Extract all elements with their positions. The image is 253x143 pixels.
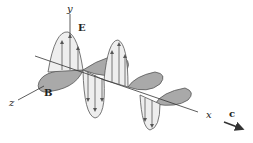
velocity-arrow bbox=[224, 122, 240, 128]
b-field-label: B bbox=[44, 87, 52, 98]
y-axis-label: y bbox=[66, 3, 73, 14]
z-axis-label: z bbox=[8, 97, 15, 108]
em-wave-diagram: y E z B x c bbox=[0, 0, 253, 143]
z-axis bbox=[18, 86, 44, 100]
b-field-lobes bbox=[20, 57, 191, 106]
e-field-label: E bbox=[78, 22, 86, 33]
velocity-label: c bbox=[229, 108, 235, 119]
x-axis-label: x bbox=[206, 109, 212, 120]
